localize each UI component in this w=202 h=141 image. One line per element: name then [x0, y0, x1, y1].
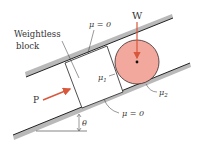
force-p-label: P — [33, 95, 39, 105]
weight-label: W — [132, 10, 143, 21]
cylinder-center-dot — [136, 61, 139, 64]
mu2-label: μ2 — [159, 88, 168, 98]
block-label-line1: Weightless — [14, 29, 61, 39]
incline-cylinder-block-diagram: W P Weightless block μ = 0 μ1 μ2 μ = 0 θ — [0, 0, 202, 141]
mu2-leader — [146, 84, 157, 92]
angle-theta-label: θ — [82, 119, 87, 128]
force-p-arrow — [43, 89, 70, 100]
block-label-line2: block — [16, 41, 40, 51]
mu-bottom-label: μ = 0 — [122, 109, 144, 118]
mu-top-label: μ = 0 — [89, 20, 111, 29]
